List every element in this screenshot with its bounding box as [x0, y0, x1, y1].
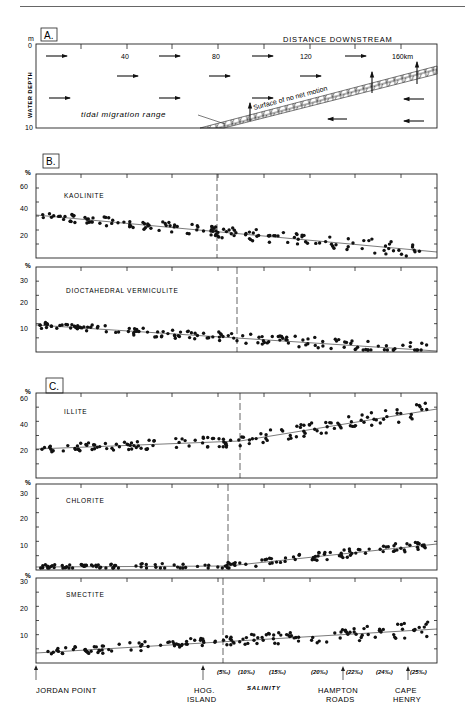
- y-axis-label: WATER DEPTH: [27, 72, 33, 118]
- panel-c: C. % 60 40 20 ILLITE % 30 20 10 CHLORITE: [20, 378, 437, 663]
- salinity-tick: (20‰): [311, 669, 328, 675]
- y-tick: 10: [20, 542, 28, 549]
- location-hampton-roads: HAMPTON: [318, 686, 358, 695]
- y-tick: 10: [20, 325, 28, 332]
- location-hog-island: ISLAND: [187, 695, 217, 704]
- x-tick-160km: 160km: [392, 53, 413, 60]
- y-tick: 20: [20, 447, 28, 454]
- panel-c-label: C.: [49, 381, 59, 392]
- smectite-plot: % 30 20 10 SMECTITE: [20, 572, 437, 663]
- panel-a-title: DISTANCE DOWNSTREAM: [283, 35, 393, 44]
- y-tick: 30: [20, 578, 28, 585]
- y-tick: 40: [20, 205, 28, 212]
- smectite-label: SMECTITE: [66, 591, 104, 598]
- salinity-tick: (22‰): [346, 669, 363, 675]
- x-tick-40: 40: [121, 53, 129, 60]
- illite-label: ILLITE: [64, 408, 87, 415]
- panel-a-label: A.: [44, 30, 53, 41]
- y-tick: 40: [20, 421, 28, 428]
- y-tick-0: 0: [28, 42, 32, 49]
- x-tick-120: 120: [300, 53, 312, 60]
- location-hampton-roads: ROADS: [326, 695, 355, 704]
- vermiculite-plot: % 30 20 10 DIOCTAHEDRAL VERMICULITE: [20, 262, 437, 352]
- y-tick: 30: [20, 490, 28, 497]
- no-net-motion-band: [200, 66, 437, 128]
- panel-b-label: B.: [46, 156, 55, 167]
- salinity-tick: (25‰): [410, 669, 427, 675]
- salinity-tick: (24‰): [376, 669, 393, 675]
- y-tick: 20: [20, 515, 28, 522]
- y-unit: %: [25, 388, 31, 395]
- y-tick: 60: [20, 395, 28, 402]
- panel-a: A. DISTANCE DOWNSTREAM m 0 10 WATER DEPT…: [25, 28, 437, 131]
- location-cape-henry: CAPE: [395, 686, 417, 695]
- y-unit: %: [25, 169, 31, 176]
- location-hog-island: HOG.: [194, 686, 215, 695]
- y-tick: 20: [20, 232, 28, 239]
- panel-b: B. % 60 40 20 KAOLINITE % 30 20 10 DIOCT…: [20, 154, 437, 352]
- y-unit: %: [25, 479, 31, 486]
- salinity-tick: (5‰): [217, 669, 230, 675]
- chlorite-plot: % 30 20 10 CHLORITE: [20, 479, 437, 570]
- salinity-tick: (15‰): [269, 669, 286, 675]
- y-unit: m: [28, 35, 34, 42]
- salinity-label: SALINITY: [247, 685, 281, 691]
- location-cape-henry: HENRY: [393, 695, 421, 704]
- figure: A. DISTANCE DOWNSTREAM m 0 10 WATER DEPT…: [0, 0, 465, 719]
- salinity-tick: (10‰): [238, 669, 255, 675]
- bottom-axis: (5‰) (10‰) (15‰) (20‰) (22‰) (24‰) (25‰)…: [34, 665, 427, 704]
- y-tick: 20: [20, 605, 28, 612]
- y-tick: 60: [20, 183, 28, 190]
- y-tick: 20: [20, 299, 28, 306]
- y-tick-10: 10: [25, 124, 33, 131]
- chlorite-label: CHLORITE: [66, 497, 104, 504]
- vermiculite-label: DIOCTAHEDRAL VERMICULITE: [66, 287, 179, 294]
- tidal-annotation: tidal migration range: [81, 110, 166, 119]
- y-unit: %: [25, 262, 31, 269]
- x-tick-80: 80: [212, 53, 220, 60]
- kaolinite-label: KAOLINITE: [64, 192, 104, 199]
- y-tick: 30: [20, 277, 28, 284]
- y-tick: 10: [20, 632, 28, 639]
- location-jordan-point: JORDAN POINT: [36, 686, 97, 695]
- illite-plot: % 60 40 20 ILLITE: [20, 388, 437, 478]
- kaolinite-plot: % 60 40 20 KAOLINITE: [20, 169, 437, 258]
